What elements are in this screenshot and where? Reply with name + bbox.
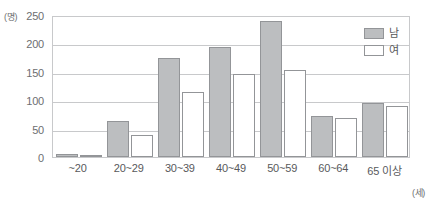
bar-female xyxy=(131,135,153,157)
y-axis-tick: 0 xyxy=(38,152,44,164)
y-axis-tick: 200 xyxy=(26,38,44,50)
y-axis-tick-labels: 050100150200250 xyxy=(0,0,48,206)
bar-female xyxy=(182,92,204,157)
bar-male xyxy=(107,121,129,157)
legend-item-female: 여 xyxy=(364,43,408,58)
legend-label-male: 남 xyxy=(389,28,399,39)
bar-male xyxy=(311,116,333,157)
legend-item-male: 남 xyxy=(364,26,408,41)
bar-male xyxy=(56,154,78,157)
male-swatch-icon xyxy=(364,28,384,39)
x-axis-unit-label: (세) xyxy=(412,186,425,199)
x-axis-tick: 65 이상 xyxy=(359,162,410,178)
bar-female xyxy=(335,118,357,157)
legend: 남 여 xyxy=(364,26,408,60)
bar-chart: (명) 050100150200250 ~2020~2930~3940~4950… xyxy=(0,0,431,206)
bar-male xyxy=(362,103,384,157)
bar-male xyxy=(209,47,231,157)
legend-label-female: 여 xyxy=(389,45,399,56)
x-axis-tick: 40~49 xyxy=(205,162,256,174)
x-axis-tick: 60~64 xyxy=(308,162,359,174)
x-axis-tick-labels: ~2020~2930~3940~4950~5960~6465 이상 xyxy=(52,162,410,184)
y-axis-tick: 250 xyxy=(26,10,44,22)
bar-male xyxy=(158,58,180,157)
x-axis-tick: 20~29 xyxy=(103,162,154,174)
y-axis-tick: 150 xyxy=(26,67,44,79)
bar-female xyxy=(80,155,102,157)
x-axis-tick: 50~59 xyxy=(257,162,308,174)
female-swatch-icon xyxy=(364,45,384,56)
bar-female xyxy=(386,106,408,157)
x-axis-tick: 30~39 xyxy=(154,162,205,174)
bar-male xyxy=(260,21,282,157)
y-axis-tick: 50 xyxy=(32,124,44,136)
bars-layer xyxy=(53,17,409,157)
x-axis-tick: ~20 xyxy=(52,162,103,174)
y-axis-tick: 100 xyxy=(26,95,44,107)
plot-area xyxy=(52,16,410,158)
bar-female xyxy=(233,74,255,157)
bar-female xyxy=(284,70,306,157)
